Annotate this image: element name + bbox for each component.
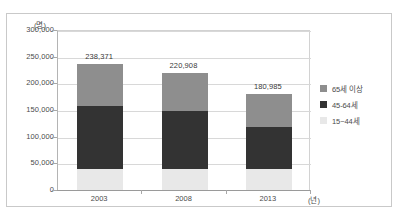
legend-item[interactable]: 15~44세 xyxy=(320,116,388,125)
chart-figure: (명) 300,000250,000200,000150,000100,0005… xyxy=(0,0,400,221)
bar-segment xyxy=(162,111,208,169)
bar-segment xyxy=(246,127,292,169)
chart-legend: 65세 이상45-64세15~44세 xyxy=(320,84,388,132)
y-axis-tick-label: 150,000 xyxy=(0,105,54,114)
legend-item[interactable]: 65세 이상 xyxy=(320,84,388,93)
x-axis-tick xyxy=(226,190,227,194)
bar-segment xyxy=(77,169,123,191)
bar-segment xyxy=(162,169,208,191)
bar-segment xyxy=(77,106,123,169)
legend-swatch-icon xyxy=(320,101,327,108)
y-axis-tick-label: 200,000 xyxy=(0,78,54,87)
legend-item-label: 15~44세 xyxy=(332,115,359,126)
y-axis-tick-label: 50,000 xyxy=(0,158,54,167)
bar-value-label: 238,371 xyxy=(59,52,139,61)
legend-swatch-icon xyxy=(320,117,327,124)
x-axis-line xyxy=(57,190,310,191)
bar-value-label: 180,985 xyxy=(228,82,308,91)
x-axis-unit-label: (년) xyxy=(308,194,338,205)
x-axis-tick xyxy=(141,190,142,194)
x-axis-tick-label: 2003 xyxy=(69,194,129,203)
y-axis-tick-label: 300,000 xyxy=(0,25,54,34)
y-axis-tick-label: 0 xyxy=(0,185,54,194)
legend-item-label: 45-64세 xyxy=(332,99,358,110)
bar-group xyxy=(162,31,208,191)
y-axis-tick-label: 250,000 xyxy=(0,52,54,61)
legend-item-label: 65세 이상 xyxy=(332,83,363,94)
x-axis-tick-label: 2008 xyxy=(154,194,214,203)
y-axis-tick-label: 100,000 xyxy=(0,132,54,141)
bar-group xyxy=(246,31,292,191)
bar-segment xyxy=(77,64,123,106)
bar-segment xyxy=(246,169,292,191)
cropped-text-remnant xyxy=(150,0,380,8)
x-axis-tick-label: 2013 xyxy=(238,194,298,203)
legend-item[interactable]: 45-64세 xyxy=(320,100,388,109)
bar-segment xyxy=(246,94,292,127)
legend-swatch-icon xyxy=(320,85,327,92)
bar-segment xyxy=(162,73,208,111)
bar-value-label: 220,908 xyxy=(144,61,224,70)
